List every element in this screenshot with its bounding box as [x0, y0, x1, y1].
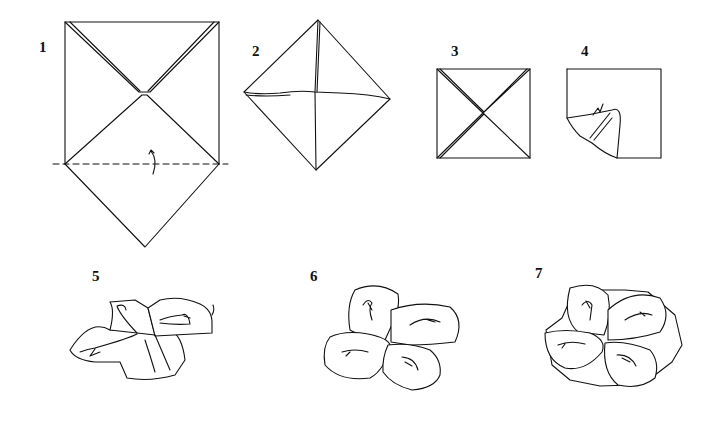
- fold-arrow-icon: [151, 151, 155, 174]
- step-6-figure: [324, 286, 459, 390]
- step-5-figure: [70, 298, 214, 379]
- step-3-figure: [437, 69, 530, 158]
- rotation-arrow-icon: [212, 305, 214, 315]
- step-4-figure: [567, 69, 661, 158]
- origami-diagram: [0, 0, 728, 421]
- step-1-figure: [53, 22, 228, 247]
- step-7-figure: [545, 285, 682, 386]
- step-2-figure: [244, 20, 390, 170]
